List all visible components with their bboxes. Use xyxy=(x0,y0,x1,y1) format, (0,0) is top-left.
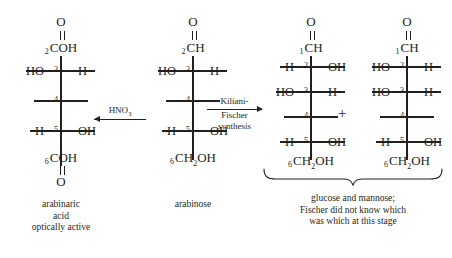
caption-line: Fischer did not know which xyxy=(263,205,443,217)
terminal-group-bottom: 6COH xyxy=(0,150,136,166)
horizontal-bond xyxy=(34,100,88,101)
locant: 3 xyxy=(394,82,404,100)
locant-top: 2 xyxy=(45,47,49,56)
left-substituent: H xyxy=(167,122,176,140)
left-substituent: H xyxy=(285,133,294,151)
caption-products: glucose and mannose; Fischer did not kno… xyxy=(263,193,443,228)
formula-bottom: CH2OH xyxy=(293,153,334,168)
product-grouping-brace xyxy=(262,168,444,186)
caption-line: arabinose xyxy=(143,199,243,211)
locant: 3 xyxy=(298,82,308,100)
left-substituent: H xyxy=(35,122,44,140)
left-substituent: H xyxy=(381,133,390,151)
left-substituent: HO xyxy=(372,83,390,101)
locant: 4 xyxy=(298,107,308,125)
right-substituent: H xyxy=(210,62,219,80)
locant-bottom: 6 xyxy=(45,157,49,166)
double-bond-top xyxy=(406,31,411,40)
formula-bottom: CH2OH xyxy=(175,150,216,165)
formula-top: CH xyxy=(400,40,418,55)
left-substituent: HO xyxy=(372,58,390,76)
stereocenter-row: 2 HO H xyxy=(332,58,452,76)
right-substituent: H xyxy=(424,83,433,101)
locant: 5 xyxy=(298,132,308,150)
carbonyl-oxygen-bottom: O xyxy=(0,174,136,190)
locant: 5 xyxy=(180,121,190,139)
hno3-formula: HNO xyxy=(109,105,129,115)
left-substituent: H xyxy=(285,58,294,76)
right-substituent: H xyxy=(78,62,87,80)
locant: 4 xyxy=(48,91,58,109)
terminal-group-top: 2COH xyxy=(0,40,136,56)
locant-top: 1 xyxy=(395,47,399,56)
caption-line: acid xyxy=(11,211,111,223)
locant: 5 xyxy=(48,121,58,139)
locant: 3 xyxy=(180,61,190,79)
locant: 2 xyxy=(298,57,308,75)
caption-line: arabinaric xyxy=(11,199,111,211)
stereocenter-row: 3 HO H xyxy=(332,83,452,101)
arrow-head-left xyxy=(94,116,100,122)
caption-line: glucose and mannose; xyxy=(263,193,443,205)
locant: 5 xyxy=(394,132,404,150)
reaction-scheme-canvas: O 2COH 3 HO H 4 5 H OH 6COH O xyxy=(0,0,452,258)
locant: 4 xyxy=(180,91,190,109)
caption-line: optically active xyxy=(11,222,111,234)
arrow-shaft xyxy=(94,119,146,120)
hno3-reagent-label: HNO3 xyxy=(94,105,146,119)
locant: 3 xyxy=(48,61,58,79)
double-bond-top xyxy=(192,31,197,40)
kiliani-fischer-label-line-2: Fischer xyxy=(207,110,262,121)
horizontal-bond xyxy=(284,116,338,117)
formula-top: COH xyxy=(50,40,77,55)
locant: 4 xyxy=(394,107,404,125)
locant-top: 1 xyxy=(299,47,303,56)
formula-bottom: CH2OH xyxy=(389,153,430,168)
double-bond-top xyxy=(310,31,315,40)
stereocenter-row: 3 HO H xyxy=(0,62,136,80)
carbonyl-oxygen-top: O xyxy=(0,14,136,30)
brace-svg xyxy=(262,168,444,186)
stereocenter-row: 4 xyxy=(332,108,452,126)
locant-top: 2 xyxy=(181,47,185,56)
stereocenter-row: 5 H OH xyxy=(332,133,452,151)
kiliani-fischer-label-line-1: Kiliani- xyxy=(207,96,262,107)
terminal-group-top: 1CH xyxy=(332,40,452,56)
carbonyl-oxygen-top: O xyxy=(332,14,452,30)
left-substituent: HO xyxy=(276,83,294,101)
locant: 2 xyxy=(394,57,404,75)
kiliani-fischer-reaction-arrow: Kiliani- Fischer synthesis xyxy=(207,96,262,136)
locant-bottom: 6 xyxy=(170,157,174,166)
caption-arabinose: arabinose xyxy=(143,199,243,211)
caption-arabinaric-acid: arabinaric acid optically active xyxy=(11,199,111,234)
left-substituent: HO xyxy=(26,62,44,80)
plus-sign: + xyxy=(338,105,346,122)
caption-line: was which at this stage xyxy=(263,216,443,228)
left-substituent: HO xyxy=(158,62,176,80)
hno3-reaction-arrow: HNO3 xyxy=(94,105,146,127)
hno3-subscript: 3 xyxy=(128,110,131,117)
right-substituent: H xyxy=(424,58,433,76)
horizontal-bond xyxy=(380,116,434,117)
formula-top: CH xyxy=(186,40,204,55)
formula-bottom: COH xyxy=(50,150,77,165)
kiliani-fischer-label-line-3: synthesis xyxy=(207,121,262,132)
double-bond-top xyxy=(60,31,65,40)
right-substituent: OH xyxy=(424,133,442,151)
formula-top: CH xyxy=(304,40,322,55)
